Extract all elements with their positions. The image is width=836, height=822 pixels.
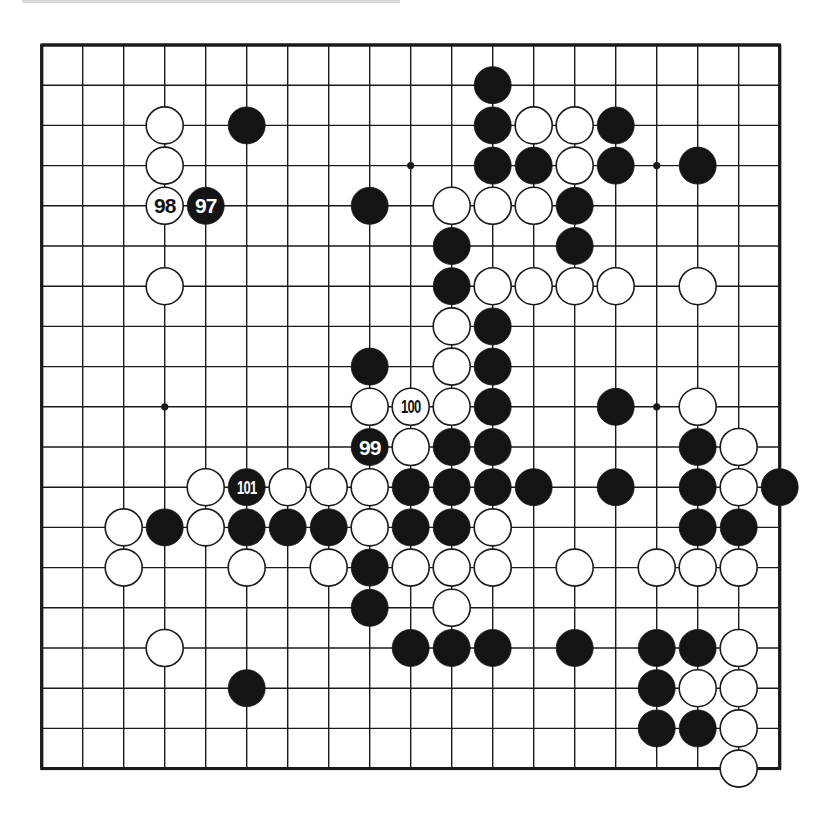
stone-black[interactable] [515,469,552,506]
stone-white[interactable] [187,509,224,546]
stone-black[interactable] [679,469,716,506]
stone-white-move-100[interactable]: 100 [392,388,429,425]
stone-white[interactable] [433,348,470,385]
stone-white[interactable] [679,388,716,425]
stone-black[interactable] [228,107,265,144]
stone-white[interactable] [433,308,470,345]
stone-black[interactable] [474,469,511,506]
stone-black[interactable] [351,589,388,626]
stone-white[interactable] [105,549,142,586]
stone-black[interactable] [351,549,388,586]
stone-white[interactable] [720,630,757,667]
stone-black[interactable] [474,630,511,667]
stone-white[interactable] [146,147,183,184]
stone-white[interactable] [146,107,183,144]
stone-black[interactable] [351,348,388,385]
stone-black[interactable] [597,107,634,144]
stone-white[interactable] [146,268,183,305]
stone-black[interactable] [597,469,634,506]
stone-white[interactable] [433,549,470,586]
stone-white[interactable] [556,147,593,184]
stone-black[interactable] [679,630,716,667]
stone-white[interactable] [638,549,675,586]
stone-white[interactable] [433,589,470,626]
stone-black[interactable] [474,429,511,466]
stone-black[interactable] [433,228,470,265]
stone-white[interactable] [433,388,470,425]
stone-black[interactable] [351,187,388,224]
stone-black[interactable] [433,630,470,667]
stone-black-move-99[interactable]: 99 [351,429,388,466]
stone-black[interactable] [474,147,511,184]
stone-white[interactable] [679,268,716,305]
stone-white[interactable] [556,268,593,305]
stone-white[interactable] [310,549,347,586]
stone-black[interactable] [638,710,675,747]
stone-black[interactable] [720,509,757,546]
stone-black[interactable] [761,469,798,506]
stone-black[interactable] [556,630,593,667]
stone-black[interactable] [474,388,511,425]
stone-white[interactable] [515,187,552,224]
stone-black[interactable] [679,429,716,466]
stone-black[interactable] [433,469,470,506]
stone-white[interactable] [515,268,552,305]
stone-black[interactable] [228,670,265,707]
stone-white[interactable] [597,268,634,305]
stone-black[interactable] [515,147,552,184]
stone-white-move-98[interactable]: 98 [146,187,183,224]
stone-white[interactable] [556,549,593,586]
stone-white[interactable] [187,469,224,506]
stone-white[interactable] [720,429,757,466]
stone-black[interactable] [597,388,634,425]
stone-white[interactable] [351,388,388,425]
stone-white[interactable] [433,187,470,224]
stone-white[interactable] [679,670,716,707]
stone-black[interactable] [392,630,429,667]
stone-white[interactable] [105,509,142,546]
stone-black[interactable] [474,67,511,104]
stone-white[interactable] [146,630,183,667]
stone-white[interactable] [228,549,265,586]
stone-black[interactable] [310,509,347,546]
stone-white[interactable] [720,469,757,506]
stone-black[interactable] [638,670,675,707]
stone-black[interactable] [392,469,429,506]
stone-white[interactable] [351,509,388,546]
stone-white[interactable] [474,509,511,546]
stone-white[interactable] [720,710,757,747]
stone-black[interactable] [638,630,675,667]
stone-white[interactable] [392,429,429,466]
stone-white[interactable] [474,549,511,586]
stone-white[interactable] [474,187,511,224]
stone-white[interactable] [720,750,757,787]
stone-white[interactable] [269,469,306,506]
stone-white[interactable] [310,469,347,506]
stone-black[interactable] [556,187,593,224]
stone-black[interactable] [146,509,183,546]
stone-black[interactable] [597,147,634,184]
stone-black-move-101[interactable]: 101 [228,469,265,506]
stone-black[interactable] [433,268,470,305]
stone-black[interactable] [392,509,429,546]
stone-black[interactable] [679,147,716,184]
go-board[interactable]: 989710099101 [0,0,836,822]
stone-black[interactable] [474,107,511,144]
stone-black[interactable] [433,509,470,546]
stone-black[interactable] [228,509,265,546]
stone-black[interactable] [679,509,716,546]
stone-white[interactable] [679,549,716,586]
stone-white[interactable] [556,107,593,144]
stone-white[interactable] [351,469,388,506]
stone-black[interactable] [269,509,306,546]
stone-black[interactable] [433,429,470,466]
stone-white[interactable] [474,268,511,305]
stone-white[interactable] [720,670,757,707]
stone-black[interactable] [474,308,511,345]
stone-white[interactable] [720,549,757,586]
stone-white[interactable] [392,549,429,586]
stone-black-move-97[interactable]: 97 [187,187,224,224]
stone-black[interactable] [679,710,716,747]
stone-white[interactable] [515,107,552,144]
stone-black[interactable] [556,228,593,265]
